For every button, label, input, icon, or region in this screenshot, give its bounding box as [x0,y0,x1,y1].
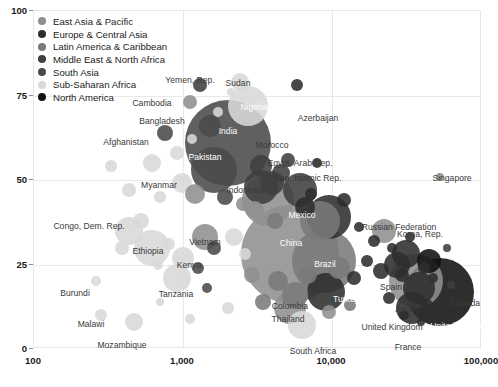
bubble-point[interactable] [305,188,317,200]
bubble-point[interactable] [373,263,389,279]
bubble-point[interactable] [187,134,197,144]
bubble-point[interactable] [157,125,173,141]
y-tick-label: 25 [0,259,27,270]
y-tick-label: 100 [0,5,27,16]
legend: East Asia & PacificEurope & Central Asia… [38,15,167,104]
bubble-point[interactable] [443,244,451,252]
bubble-point[interactable] [105,160,117,172]
legend-swatch-icon [38,81,46,89]
bubble-point[interactable] [133,213,149,229]
bubble-point[interactable] [354,222,364,232]
legend-label: Latin America & Caribbean [53,41,167,52]
bubble-point[interactable] [163,238,175,250]
bubble-point[interactable] [272,164,290,182]
bubble-point[interactable] [288,311,316,339]
bubble-point[interactable] [222,302,234,314]
bubble-point[interactable] [368,235,380,247]
legend-swatch-icon [38,43,46,51]
legend-label: North America [53,92,114,103]
legend-swatch-icon [38,17,46,25]
bubble-point[interactable] [387,243,397,253]
bubble-point[interactable] [244,267,260,283]
bubble-point[interactable] [170,146,184,160]
bubble-point[interactable] [395,268,409,282]
bubble-point[interactable] [347,271,361,285]
bubble-point[interactable] [312,158,322,168]
bubble-point[interactable] [383,292,395,304]
bubble-point[interactable] [255,294,271,310]
legend-label: East Asia & Pacific [53,16,133,27]
bubble-point[interactable] [405,232,415,242]
legend-swatch-icon [38,68,46,76]
bubble-point[interactable] [193,78,207,92]
bubble-point[interactable] [295,197,315,217]
bubble-point[interactable] [236,197,250,211]
bubble-point[interactable] [447,281,455,289]
bubble-point[interactable] [250,155,272,177]
bubble-point[interactable] [299,266,317,284]
bubble-point[interactable] [328,257,350,279]
x-tick-label: 100 [25,355,41,366]
bubble-point[interactable] [154,191,166,203]
legend-item[interactable]: Sub-Saharan Africa [38,78,167,91]
bubble-point[interactable] [227,88,235,96]
bubble-point[interactable] [344,299,356,311]
legend-item[interactable]: South Asia [38,66,167,79]
bubble-point[interactable] [185,184,205,204]
bubble-point[interactable] [192,262,204,274]
bubble-point[interactable] [199,115,221,137]
bubble-point[interactable] [153,260,163,270]
legend-item[interactable]: East Asia & Pacific [38,15,167,28]
bubble-point[interactable] [183,95,197,109]
legend-label: South Asia [53,67,99,78]
x-tick-label: 10,000 [316,355,345,366]
legend-item[interactable]: Europe & Central Asia [38,28,167,41]
bubble-point[interactable] [267,213,283,229]
y-tick-label: 75 [0,90,27,101]
bubble-point[interactable] [322,305,336,319]
bubble-point[interactable] [95,309,107,321]
bubble-point[interactable] [399,310,409,320]
bubble-point[interactable] [143,154,161,172]
x-tick-label: 1,000 [170,355,194,366]
bubble-point[interactable] [291,79,303,91]
bubble-point[interactable] [156,298,164,306]
bubble-point[interactable] [207,241,221,255]
bubble-point[interactable] [202,283,212,293]
bubble-point[interactable] [122,183,136,197]
legend-label: Sub-Saharan Africa [53,79,136,90]
legend-item[interactable]: Middle East & North Africa [38,53,167,66]
bubble-point[interactable] [125,313,143,331]
legend-label: Middle East & North Africa [53,54,165,65]
legend-item[interactable]: North America [38,91,167,104]
legend-swatch-icon [38,30,46,38]
legend-swatch-icon [38,93,46,101]
bubble-point[interactable] [281,153,295,167]
legend-item[interactable]: Latin America & Caribbean [38,40,167,53]
bubble-point[interactable] [217,189,233,205]
bubble-point[interactable] [239,248,251,260]
y-tick-mark [29,348,33,349]
bubble-point[interactable] [185,314,195,324]
bubble-point[interactable] [418,262,430,274]
bubble-point[interactable] [225,228,243,246]
legend-swatch-icon [38,55,46,63]
y-tick-label: 0 [0,343,27,354]
bubble-point[interactable] [268,271,288,291]
bubble-point[interactable] [337,193,351,207]
y-tick-label: 50 [0,174,27,185]
bubble-point[interactable] [91,276,101,286]
legend-label: Europe & Central Asia [53,29,147,40]
bubble-point[interactable] [115,241,129,255]
bubble-point[interactable] [421,299,433,311]
bubble-point[interactable] [436,173,444,181]
x-tick-label: 100,000 [464,355,498,366]
bubble-point[interactable] [361,255,373,267]
bubble-point[interactable] [417,318,425,326]
bubble-point[interactable] [428,273,438,283]
bubble-point[interactable] [213,107,223,117]
